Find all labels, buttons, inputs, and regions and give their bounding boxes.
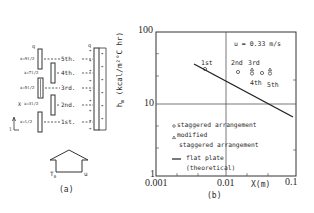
y-tick-100: 100 xyxy=(138,24,153,35)
svg-text:+: + xyxy=(101,77,104,82)
inlet-velocity-label: u xyxy=(84,170,88,177)
x-tick-001: 0.01 xyxy=(217,177,235,188)
panel-a-label: (a) xyxy=(59,185,73,194)
legend-circle-icon xyxy=(173,125,176,128)
position-label-3rd: x=5l/2 xyxy=(20,85,34,90)
modified-staggered-markers xyxy=(250,68,271,71)
plate-label-4th: 4th. xyxy=(61,69,75,76)
svg-text:+: + xyxy=(89,118,92,123)
svg-text:+: + xyxy=(89,78,92,83)
point-label-2nd: 2nd xyxy=(231,59,243,67)
plate-label-3rd: 3rd. xyxy=(61,84,75,91)
flat-plate-theoretical-line xyxy=(194,64,293,117)
spacing-symbol: l xyxy=(9,126,12,132)
svg-text:+: + xyxy=(89,68,92,73)
plate-2nd xyxy=(51,95,55,115)
plate-1st xyxy=(38,112,42,132)
legend-triangle-icon xyxy=(173,136,176,139)
svg-text:+: + xyxy=(89,108,92,113)
position-label-2nd: x=3l/2 xyxy=(24,101,38,106)
y-axis-label: hm (kcal/m²°C hr) xyxy=(112,40,128,110)
plate-label-1st: 1st. xyxy=(61,118,75,125)
svg-text:+: + xyxy=(89,126,92,131)
svg-text:+: + xyxy=(101,51,104,56)
legend-modified-line1: modified xyxy=(177,131,207,138)
svg-text:+: + xyxy=(89,58,92,63)
svg-text:+: + xyxy=(101,64,104,69)
svg-text:+: + xyxy=(101,116,104,121)
point-label-3rd: 3rd xyxy=(248,59,260,67)
svg-text:+: + xyxy=(89,98,92,103)
legend-flat-plate-line2: (theoretical) xyxy=(186,164,235,171)
legend-modified-line2: staggered arrangement xyxy=(179,141,259,148)
position-label-1st: x=l/2 xyxy=(20,119,32,124)
svg-text:+: + xyxy=(101,90,104,95)
x-tick-01: 0.1 xyxy=(285,176,298,187)
svg-text:+: + xyxy=(89,88,92,93)
heat-flux-label: q xyxy=(32,43,35,49)
x-axis-symbol: X xyxy=(18,101,21,107)
point-label-4th: 4th xyxy=(250,79,262,87)
panel-a-diagram: +++ +++ +++ +++ +++ 5th. 4th. 3rd. 2nd. … xyxy=(0,0,120,213)
wall-plate xyxy=(94,48,99,130)
wall-heat-flux-label: q xyxy=(88,42,91,48)
legend-flat-plate-line1: flat plate xyxy=(186,154,224,161)
position-label-5th: x=9l/2 xyxy=(20,56,34,61)
plate-label-5th: 5th. xyxy=(61,55,75,62)
svg-text:+: + xyxy=(101,103,104,108)
plate-4th xyxy=(51,63,55,83)
point-label-5th: 5th xyxy=(267,81,279,89)
legend-staggered: staggered arrangement xyxy=(177,121,257,128)
panel-b-chart: hm (kcal/m²°C hr) 100 10 1 0.001 0.01 0.… xyxy=(110,0,314,213)
y-tick-10: 10 xyxy=(144,97,154,108)
plate-label-2nd: 2nd. xyxy=(61,101,75,108)
svg-text:+: + xyxy=(89,48,92,53)
plate-5th xyxy=(38,49,42,69)
position-label-4th: x=7l/2 xyxy=(24,70,38,75)
point-label-1st: 1st xyxy=(201,59,213,67)
x-tick-0001: 0.001 xyxy=(145,177,168,188)
x-axis-label: X(m) xyxy=(251,180,270,189)
panel-b-label: (b) xyxy=(207,191,221,200)
inlet-temp-label: T0 xyxy=(50,170,56,179)
velocity-annotation: u = 0.33 m/s xyxy=(234,40,281,48)
